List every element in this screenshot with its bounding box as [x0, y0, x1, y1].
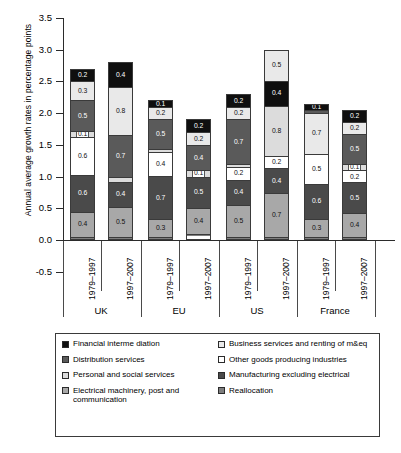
- y-axis-tick: [56, 18, 63, 19]
- segment-value-label: 0.4: [272, 178, 281, 185]
- bar-segment-manu: 0.4: [265, 169, 288, 194]
- bar-segment-elec: 0.4: [71, 213, 94, 238]
- x-axis-period-label: 1997–2007: [125, 257, 135, 300]
- bar-segment-dist: 0.4: [187, 146, 210, 171]
- stacked-bar[interactable]: 0.50.40.80.20.40.7: [264, 50, 289, 240]
- legend-item[interactable]: Other goods producing industries: [218, 355, 376, 365]
- segment-value-label: 0.6: [312, 198, 321, 205]
- y-axis-line: [63, 18, 64, 266]
- segment-value-label: 0.5: [272, 62, 281, 69]
- stacked-bar[interactable]: 0.10.20.50.40.70.3: [148, 100, 173, 240]
- legend-swatch-bus: [218, 341, 225, 348]
- bar-segment-manu: 0.5: [187, 178, 210, 210]
- segment-value-label: 0.7: [272, 212, 281, 219]
- bar-segment-pers: 0.8: [265, 107, 288, 157]
- legend-swatch-fin: [62, 341, 69, 348]
- legend-item[interactable]: Reallocation: [218, 386, 376, 396]
- stacked-bar[interactable]: 0.20.20.70.20.40.5: [226, 94, 251, 240]
- stacked-bar[interactable]: 0.20.30.50.10.60.60.4: [70, 69, 95, 240]
- x-axis-group-separator: [141, 241, 142, 317]
- bar-segment-bus: 0.8: [109, 88, 132, 136]
- bar-segment-ogp: 0.2: [343, 171, 366, 183]
- y-axis-tick: [56, 81, 63, 82]
- legend-item[interactable]: Electrical machinery, post and communica…: [62, 386, 212, 405]
- bar-segment-manu: 0.4: [227, 181, 250, 206]
- legend-label: Manufacturing excluding electrical: [229, 370, 350, 380]
- x-axis-period-label: 1979–1997: [87, 257, 97, 300]
- x-axis-period-label: 1997–2007: [281, 257, 291, 300]
- segment-value-label: 0.2: [234, 110, 243, 117]
- x-axis-period-label: 1997–2007: [203, 257, 213, 300]
- stacked-bar[interactable]: 0.20.20.40.10.50.4: [186, 119, 211, 240]
- bar-segment-manu: 0.4: [109, 183, 132, 207]
- bar-segment-ogp: 0.2: [265, 157, 288, 169]
- x-axis-group-separator: [63, 241, 64, 317]
- legend-swatch-ogp: [218, 356, 225, 363]
- legend-label: Financial interme diation: [73, 339, 160, 349]
- segment-value-label: 0.2: [234, 98, 243, 105]
- segment-value-label: 0.2: [272, 159, 281, 166]
- x-axis-group-separator: [297, 241, 298, 317]
- segment-value-label: 0.7: [234, 139, 243, 146]
- bar-segment-manu: 0.5: [343, 183, 366, 213]
- y-axis-tick-label: 0.0: [0, 234, 52, 245]
- y-axis-tick-label: 0.5: [0, 202, 52, 213]
- segment-value-label: 0.2: [350, 113, 359, 120]
- y-axis-tick: [56, 208, 63, 209]
- legend-item[interactable]: Distribution services: [62, 355, 212, 365]
- stacked-bar[interactable]: 0.10.70.50.60.3: [304, 104, 329, 240]
- segment-value-label: 0.7: [312, 130, 321, 137]
- bar-segment-fin: 0.2: [187, 120, 210, 133]
- x-axis-group-separator: [375, 241, 376, 317]
- segment-value-label: 0.2: [350, 174, 359, 181]
- legend-item[interactable]: Personal and social services: [62, 370, 212, 380]
- x-axis-inner-separator: [101, 241, 102, 291]
- x-axis-period-label: 1979–1997: [165, 257, 175, 300]
- bar-segment-dist: 0.5: [343, 135, 366, 165]
- stacked-bar[interactable]: 0.40.80.70.40.5: [108, 62, 133, 240]
- segment-value-label: 0.2: [194, 123, 203, 130]
- legend: Financial interme diationDistribution se…: [55, 333, 380, 437]
- segment-value-label: 0.5: [312, 166, 321, 173]
- segment-value-label: 0.3: [78, 88, 87, 95]
- segment-value-label: 0.6: [78, 153, 87, 160]
- y-axis-tick-label: 3.5: [0, 12, 52, 23]
- stacked-bar[interactable]: 0.20.20.50.10.20.50.4: [342, 110, 367, 240]
- bar-segment-real: [343, 238, 366, 239]
- segment-value-label: 0.5: [78, 113, 87, 120]
- bar-segment-fin: 0.4: [109, 63, 132, 87]
- y-axis-tick-label: -0.5: [0, 266, 52, 277]
- bar-segment-ogp: 0.5: [305, 155, 328, 185]
- bar-segment-elec: 0.4: [343, 214, 366, 238]
- x-axis-period-label: 1979–1997: [243, 257, 253, 300]
- segment-value-label: 0.5: [234, 218, 243, 225]
- segment-value-label: 0.4: [194, 155, 203, 162]
- bar-segment-bus: 0.7: [305, 114, 328, 155]
- y-axis-tick-label: 1.0: [0, 171, 52, 182]
- segment-value-label: 0.8: [116, 108, 125, 115]
- segment-value-label: 0.2: [234, 170, 243, 177]
- bar-segment-elec: 0.4: [187, 209, 210, 234]
- bar-segment-elec: 0.3: [149, 220, 172, 238]
- legend-item[interactable]: Financial interme diation: [62, 339, 212, 349]
- legend-item[interactable]: Business services and renting of m&eq: [218, 339, 376, 349]
- bar-segment-fin: 0.2: [227, 95, 250, 108]
- segment-value-label: 0.4: [116, 72, 125, 79]
- segment-value-label: 0.4: [350, 222, 359, 229]
- x-axis-group-label: UK: [63, 305, 139, 316]
- segment-value-label: 0.7: [156, 195, 165, 202]
- y-axis-tick: [56, 113, 63, 114]
- bar-segment-real: [109, 238, 132, 239]
- x-axis-inner-separator: [179, 241, 180, 291]
- segment-value-label: 0.4: [156, 161, 165, 168]
- legend-label: Business services and renting of m&eq: [229, 339, 367, 349]
- bar-segment-fin: 0.2: [71, 70, 94, 82]
- y-axis-tick: [56, 177, 63, 178]
- y-axis-tick: [56, 240, 63, 241]
- segment-value-label: 0.3: [156, 225, 165, 232]
- segment-value-label: 0.4: [116, 191, 125, 198]
- segment-value-label: 0.4: [234, 189, 243, 196]
- legend-label: Personal and social services: [73, 370, 174, 380]
- legend-item[interactable]: Manufacturing excluding electrical: [218, 370, 376, 380]
- bar-segment-dist: 0.5: [149, 120, 172, 150]
